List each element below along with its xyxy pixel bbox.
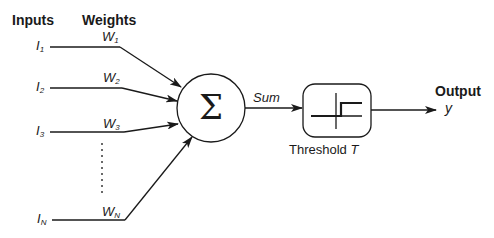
sum-label: Sum <box>253 91 280 104</box>
input-2-label: I2 <box>36 80 44 95</box>
weight-2-label: W2 <box>103 71 120 86</box>
input-1-label: I1 <box>36 39 44 54</box>
input-2-connection <box>50 88 177 101</box>
threshold-label: Threshold T <box>289 143 358 156</box>
output-symbol: y <box>445 101 452 115</box>
inputs-header: Inputs <box>12 13 54 27</box>
perceptron-diagram-graphics <box>0 0 494 238</box>
weight-n-label: WN <box>102 205 120 220</box>
input-n-label: IN <box>37 212 46 227</box>
sigma-symbol: Σ <box>199 90 223 124</box>
step-function-icon <box>311 93 362 129</box>
weights-header: Weights <box>82 13 136 27</box>
output-header: Output <box>435 84 481 98</box>
weight-1-label: W1 <box>102 30 119 45</box>
input-n-connection <box>52 137 192 220</box>
weight-3-label: W3 <box>103 117 120 132</box>
input-3-label: I3 <box>36 124 44 139</box>
threshold-node <box>303 84 371 137</box>
